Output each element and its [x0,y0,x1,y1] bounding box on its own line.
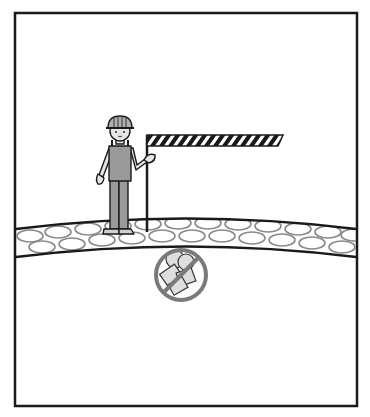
worker-torso [109,146,131,181]
worker-leg-left [110,180,119,229]
helmet-icon [108,116,132,128]
worker-shoe-right [119,229,134,234]
worker-leg-right [119,180,128,229]
barrier-bar [147,135,283,146]
illustration [0,0,370,417]
frame-border [15,13,357,406]
worker-shoe-left [103,229,119,234]
